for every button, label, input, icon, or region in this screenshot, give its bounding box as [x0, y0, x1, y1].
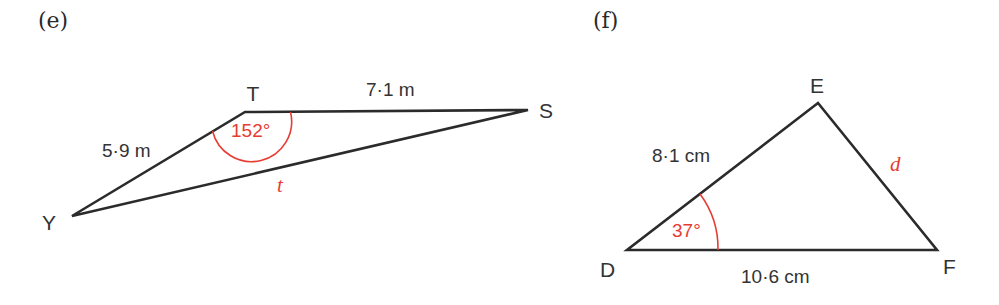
- diagram-canvas: (e) 152° T S Y 7·1 m 5·9 m t (f) 37° E D…: [0, 0, 999, 305]
- vertex-label-y: Y: [42, 211, 56, 234]
- side-label-ys: t: [277, 173, 284, 197]
- part-label-e: (e): [38, 8, 68, 33]
- side-label-ef: d: [890, 152, 901, 176]
- vertex-label-e: E: [810, 74, 824, 97]
- side-label-ty: 5·9 m: [102, 140, 151, 161]
- figure-e: (e) 152° T S Y 7·1 m 5·9 m t: [38, 8, 553, 234]
- side-label-ts: 7·1 m: [366, 79, 415, 100]
- angle-arc-d: [700, 194, 718, 250]
- side-label-df: 10·6 cm: [741, 266, 810, 287]
- angle-label-d: 37°: [672, 220, 701, 241]
- vertex-label-f: F: [943, 255, 956, 278]
- vertex-label-t: T: [247, 82, 260, 105]
- vertex-label-d: D: [600, 258, 615, 281]
- triangle-tsy: [72, 110, 528, 216]
- part-label-f: (f): [593, 8, 618, 33]
- angle-label-t: 152°: [231, 120, 270, 141]
- side-label-de: 8·1 cm: [652, 145, 710, 166]
- vertex-label-s: S: [539, 99, 553, 122]
- figure-f: (f) 37° E D F 8·1 cm 10·6 cm d: [593, 8, 956, 287]
